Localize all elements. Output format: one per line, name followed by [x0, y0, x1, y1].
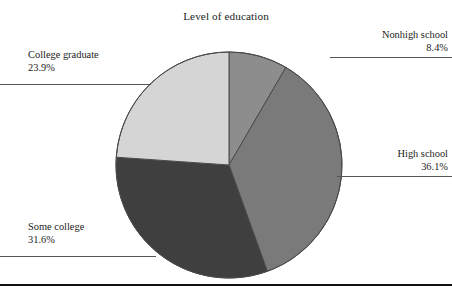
- pie-label-high-school-text: High school: [397, 148, 448, 161]
- pie-slice-college-graduate[interactable]: [116, 52, 229, 165]
- figure-bottom-rule: [0, 284, 452, 286]
- pie-label-college-graduate-value: 23.9%: [28, 62, 99, 75]
- pie-graphic: [110, 46, 348, 284]
- pie-label-nonhigh-school-value: 8.4%: [382, 42, 448, 55]
- pie-label-high-school: High school 36.1%: [397, 148, 448, 173]
- leader-line-some-college: [0, 256, 156, 257]
- pie-label-college-graduate-text: College graduate: [28, 49, 99, 62]
- pie-label-nonhigh-school: Nonhigh school 8.4%: [382, 29, 448, 54]
- pie-svg: [110, 46, 348, 284]
- pie-label-some-college-value: 31.6%: [28, 234, 84, 247]
- pie-label-some-college: Some college 31.6%: [28, 221, 84, 246]
- leader-line-nonhigh-school: [330, 57, 452, 58]
- pie-chart-figure: Level of education Nonhigh school 8.4% H…: [0, 0, 452, 296]
- pie-label-nonhigh-school-text: Nonhigh school: [382, 29, 448, 42]
- chart-title: Level of education: [0, 9, 452, 23]
- pie-label-some-college-text: Some college: [28, 221, 84, 234]
- leader-line-college-graduate: [0, 84, 151, 85]
- pie-label-college-graduate: College graduate 23.9%: [28, 49, 99, 74]
- leader-line-high-school: [337, 176, 452, 177]
- pie-label-high-school-value: 36.1%: [397, 161, 448, 174]
